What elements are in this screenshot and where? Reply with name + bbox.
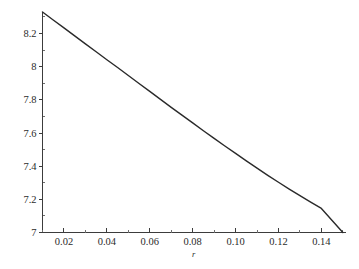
y-tick-label: 8	[31, 61, 36, 72]
x-tick-label: 0.14	[312, 236, 331, 247]
data-curve	[43, 12, 343, 233]
x-tick-label: 0.10	[226, 236, 244, 247]
y-tick-label: 7.6	[23, 128, 36, 139]
x-tick-label: 0.08	[183, 236, 201, 247]
x-axis-title: r	[192, 249, 196, 259]
y-tick-label: 7.4	[23, 161, 37, 172]
x-axis-tick-labels: 0.020.040.060.080.100.120.14	[55, 236, 332, 247]
tick-marks	[39, 17, 343, 233]
plot-figure: 0.020.040.060.080.100.120.14 77.27.47.67…	[0, 0, 359, 269]
series-line-curve	[43, 12, 343, 233]
x-tick-label: 0.04	[98, 236, 117, 247]
y-tick-label: 7.8	[23, 94, 36, 105]
plot-canvas: 0.020.040.060.080.100.120.14 77.27.47.67…	[0, 0, 359, 269]
x-axis-title-text: r	[192, 249, 196, 259]
x-tick-label: 0.06	[141, 236, 159, 247]
y-tick-label: 7	[31, 227, 36, 238]
x-tick-label: 0.12	[269, 236, 287, 247]
x-tick-label: 0.02	[55, 236, 73, 247]
y-tick-label: 7.2	[23, 194, 36, 205]
y-tick-label: 8.2	[23, 28, 36, 39]
y-axis-tick-labels: 77.27.47.67.888.2	[23, 28, 37, 238]
